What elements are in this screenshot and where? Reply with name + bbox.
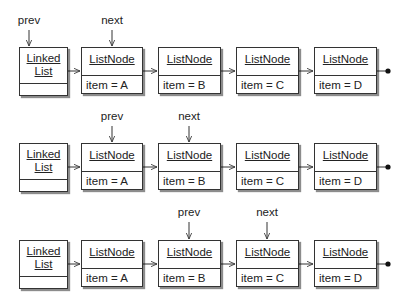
divider [20, 179, 67, 180]
node-item: item = D [319, 175, 362, 188]
node-item: item = C [241, 79, 284, 92]
node-title: ListNode [82, 246, 142, 259]
node-item: item = B [163, 272, 206, 285]
divider [82, 75, 142, 76]
linked-list-title-line2: List [20, 65, 67, 78]
divider [237, 75, 298, 76]
linked-list-box: Linked List [19, 240, 68, 289]
linked-list-title-line2: List [20, 258, 67, 271]
list-node-d: ListNode item = D [314, 47, 377, 94]
divider [159, 171, 220, 172]
next-pointer-label: next [247, 206, 287, 218]
list-node-a: ListNode item = A [81, 240, 143, 287]
prev-pointer-label: prev [92, 110, 132, 122]
node-item: item = B [163, 175, 206, 188]
divider [159, 268, 220, 269]
node-item: item = D [319, 79, 362, 92]
linked-list-box: Linked List [19, 143, 68, 192]
list-node-c: ListNode item = C [236, 47, 299, 94]
divider [237, 171, 298, 172]
node-title: ListNode [237, 246, 298, 259]
node-item: item = C [241, 272, 284, 285]
node-title: ListNode [315, 149, 376, 162]
list-node-a: ListNode item = A [81, 143, 143, 190]
node-title: ListNode [159, 53, 220, 66]
node-title: ListNode [82, 149, 142, 162]
divider [237, 268, 298, 269]
node-title: ListNode [315, 246, 376, 259]
node-item: item = D [319, 272, 362, 285]
node-item: item = A [86, 175, 128, 188]
node-title: ListNode [237, 149, 298, 162]
next-pointer-label: next [169, 110, 209, 122]
linked-list-title-line1: Linked [20, 52, 67, 65]
node-title: ListNode [159, 149, 220, 162]
prev-pointer-label: prev [9, 14, 49, 26]
list-node-a: ListNode item = A [81, 47, 143, 94]
node-item: item = B [163, 79, 206, 92]
divider [82, 268, 142, 269]
node-item: item = A [86, 272, 128, 285]
node-title: ListNode [237, 53, 298, 66]
list-node-c: ListNode item = C [236, 240, 299, 287]
node-title: ListNode [82, 53, 142, 66]
divider [315, 75, 376, 76]
list-node-b: ListNode item = B [158, 240, 221, 287]
node-title: ListNode [315, 53, 376, 66]
divider [159, 75, 220, 76]
divider [315, 171, 376, 172]
linked-list-title-line1: Linked [20, 245, 67, 258]
node-title: ListNode [159, 246, 220, 259]
node-item: item = C [241, 175, 284, 188]
node-item: item = A [86, 79, 128, 92]
list-node-d: ListNode item = D [314, 240, 377, 287]
divider [315, 268, 376, 269]
list-node-d: ListNode item = D [314, 143, 377, 190]
divider [20, 276, 67, 277]
linked-list-title-line1: Linked [20, 148, 67, 161]
list-node-b: ListNode item = B [158, 143, 221, 190]
divider [20, 83, 67, 84]
linked-list-title-line2: List [20, 161, 67, 174]
linked-list-box: Linked List [19, 47, 68, 96]
list-node-b: ListNode item = B [158, 47, 221, 94]
list-node-c: ListNode item = C [236, 143, 299, 190]
prev-pointer-label: prev [169, 206, 209, 218]
next-pointer-label: next [92, 14, 132, 26]
divider [82, 171, 142, 172]
